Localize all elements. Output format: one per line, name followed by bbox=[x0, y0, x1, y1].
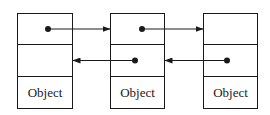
list-node-1: Object bbox=[18, 14, 73, 109]
node-label: Object bbox=[120, 85, 155, 100]
node-label: Object bbox=[213, 85, 248, 100]
linked-list-diagram: Object Object Object bbox=[0, 0, 270, 115]
node-label: Object bbox=[28, 85, 63, 100]
